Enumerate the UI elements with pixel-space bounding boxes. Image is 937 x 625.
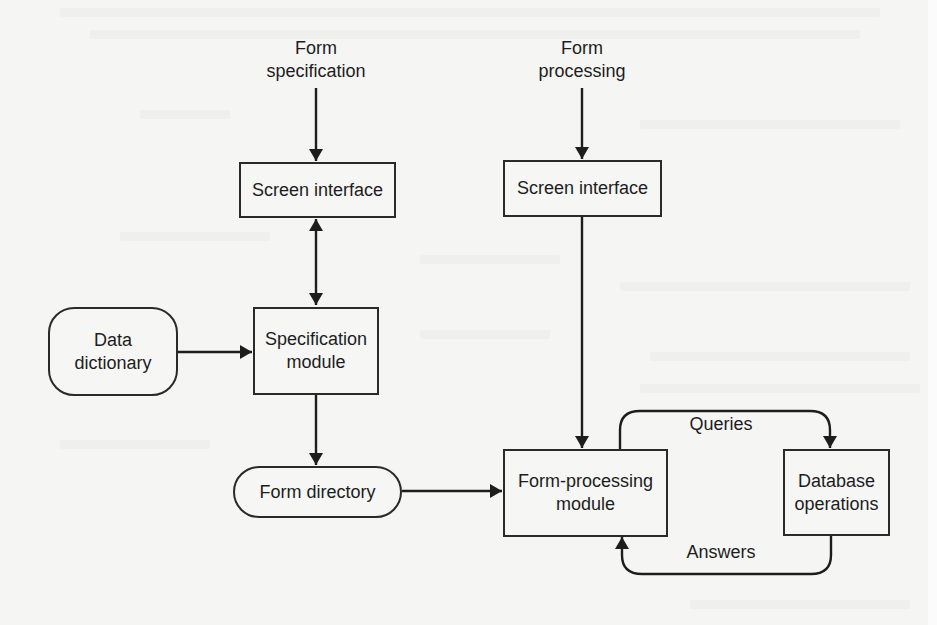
diagram-page: Form specification Form processing Scree… bbox=[0, 0, 937, 625]
node-form-processing-module: Form-processing module bbox=[503, 449, 668, 537]
node-specification-module: Specification module bbox=[253, 307, 379, 395]
input-form-processing: Form processing bbox=[522, 37, 642, 83]
node-screen-interface-proc: Screen interface bbox=[503, 160, 662, 217]
node-form-directory: Form directory bbox=[233, 466, 402, 518]
node-database-operations: Database operations bbox=[783, 449, 890, 536]
edge-label-answers: Answers bbox=[671, 541, 771, 564]
node-screen-interface-spec: Screen interface bbox=[239, 162, 396, 218]
node-data-dictionary: Data dictionary bbox=[48, 307, 178, 396]
input-form-specification: Form specification bbox=[246, 37, 386, 83]
edge-label-queries: Queries bbox=[671, 413, 771, 436]
